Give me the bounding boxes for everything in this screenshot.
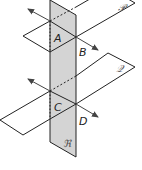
point-a-label: A — [53, 32, 62, 45]
point-c-label: C — [54, 101, 62, 114]
point-d-label: D — [79, 115, 87, 128]
geometry-diagram: A B C D 𝒫 𝒬 ℜ — [0, 0, 142, 170]
point-b-label: B — [79, 46, 87, 59]
plane-r-label: ℜ — [63, 138, 72, 149]
plane-q-label: 𝒬 — [116, 63, 125, 74]
